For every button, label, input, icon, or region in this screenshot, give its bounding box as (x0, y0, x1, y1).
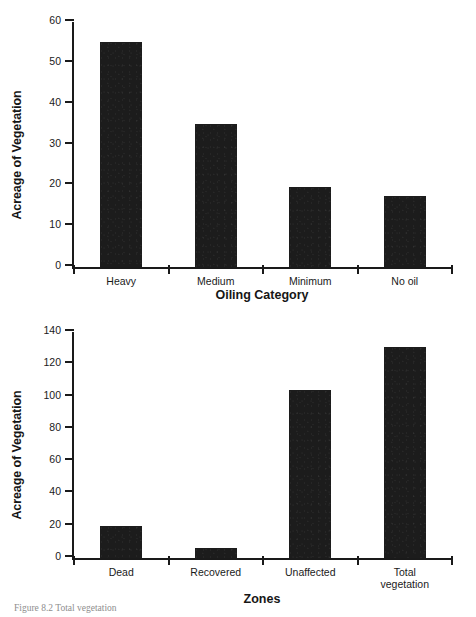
x-tick-label: No oil (358, 275, 453, 287)
y-axis-title-top: Acreage of Vegetation (0, 0, 34, 310)
x-tick-label: Totalvegetation (358, 566, 453, 590)
y-tick: 40 (65, 490, 74, 492)
bars-group-top (74, 22, 452, 267)
y-tick-label: 120 (43, 357, 61, 368)
bar (384, 347, 426, 558)
y-tick-label: 20 (49, 518, 61, 529)
x-tick (357, 265, 359, 274)
x-tick (451, 556, 453, 565)
y-tick-label: 80 (49, 422, 61, 433)
bar (195, 548, 237, 558)
y-tick: 60 (65, 19, 74, 21)
x-tick (168, 556, 170, 565)
x-tick (451, 265, 453, 274)
y-tick-label: 10 (49, 219, 61, 230)
plot-area-bottom: DeadRecoveredUnaffectedTotalvegetation 0… (72, 332, 452, 560)
bar (100, 42, 142, 267)
bar (195, 124, 237, 267)
y-tick: 10 (65, 223, 74, 225)
x-tick-label: Recovered (169, 566, 264, 578)
y-tick: 20 (65, 182, 74, 184)
chart-oiling-category: Acreage of Vegetation HeavyMediumMinimum… (0, 0, 476, 310)
x-tick-label: Unaffected (263, 566, 358, 578)
bars-group-bottom (74, 332, 452, 558)
y-tick-label: 140 (43, 325, 61, 336)
x-axis-title-top: Oiling Category (72, 288, 452, 302)
y-tick-label: 30 (49, 137, 61, 148)
y-tick-label: 50 (49, 56, 61, 67)
y-tick: 20 (65, 523, 74, 525)
bar (289, 390, 331, 558)
plot-area-top: HeavyMediumMinimumNo oil 0102030405060 (72, 22, 452, 269)
bar (289, 187, 331, 267)
x-tick-label: Dead (74, 566, 169, 578)
x-tick (168, 265, 170, 274)
y-tick-label: 60 (49, 454, 61, 465)
x-tick-label: Medium (169, 275, 264, 287)
y-tick: 60 (65, 458, 74, 460)
chart-zones: Acreage of Vegetation DeadRecoveredUnaff… (0, 310, 476, 600)
y-tick-label: 20 (49, 178, 61, 189)
y-tick-label: 100 (43, 389, 61, 400)
y-tick: 30 (65, 142, 74, 144)
figure-caption: Figure 8.2 Total vegetation (14, 603, 117, 617)
x-tick-label: Minimum (263, 275, 358, 287)
y-tick: 40 (65, 101, 74, 103)
y-tick-label: 0 (55, 260, 61, 271)
x-axis-title-bottom: Zones (72, 592, 452, 606)
x-tick (357, 556, 359, 565)
bar (100, 526, 142, 558)
x-tick (73, 265, 75, 274)
y-tick: 100 (65, 394, 74, 396)
y-tick-label: 60 (49, 15, 61, 26)
x-tick (73, 556, 75, 565)
y-axis-title-bottom: Acreage of Vegetation (0, 310, 34, 600)
x-tick-label: Heavy (74, 275, 169, 287)
bar (384, 196, 426, 267)
y-tick: 80 (65, 426, 74, 428)
figure-page: Acreage of Vegetation HeavyMediumMinimum… (0, 0, 476, 617)
y-tick-label: 40 (49, 486, 61, 497)
y-tick: 140 (65, 329, 74, 331)
x-tick (262, 556, 264, 565)
y-tick-label: 0 (55, 551, 61, 562)
x-tick (262, 265, 264, 274)
y-tick: 50 (65, 60, 74, 62)
y-tick: 120 (65, 361, 74, 363)
y-tick-label: 40 (49, 96, 61, 107)
